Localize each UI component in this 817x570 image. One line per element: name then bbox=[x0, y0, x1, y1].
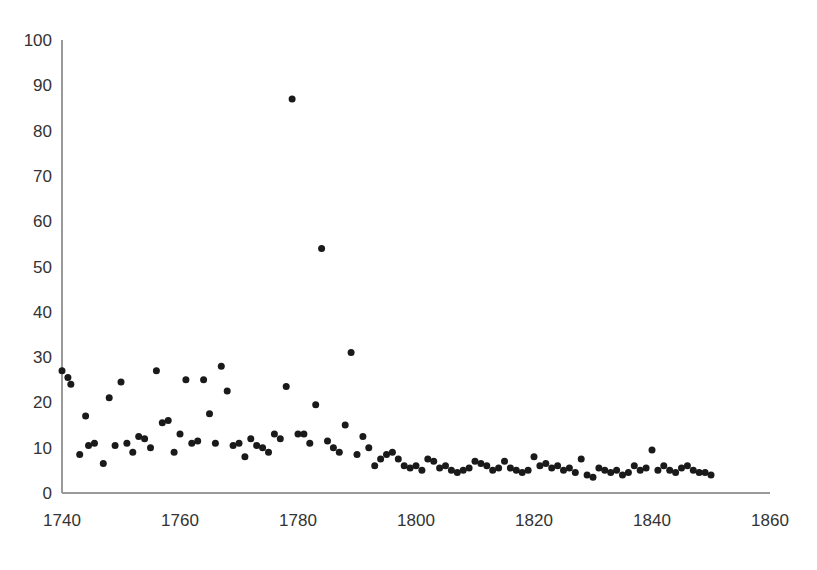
data-point bbox=[483, 462, 490, 469]
data-point bbox=[572, 469, 579, 476]
data-point bbox=[212, 440, 219, 447]
y-axis-tick-labels: 0102030405060708090100 bbox=[24, 31, 52, 503]
y-tick-label: 10 bbox=[33, 439, 52, 458]
data-point bbox=[82, 412, 89, 419]
data-point bbox=[684, 462, 691, 469]
data-point bbox=[342, 422, 349, 429]
data-point bbox=[100, 460, 107, 467]
data-point bbox=[91, 440, 98, 447]
data-point bbox=[289, 95, 296, 102]
data-point bbox=[283, 383, 290, 390]
data-point bbox=[59, 367, 66, 374]
data-point bbox=[194, 437, 201, 444]
data-point bbox=[153, 367, 160, 374]
data-point bbox=[413, 462, 420, 469]
data-point bbox=[625, 469, 632, 476]
data-point bbox=[67, 381, 74, 388]
data-point bbox=[206, 410, 213, 417]
y-tick-label: 50 bbox=[33, 258, 52, 277]
data-point bbox=[271, 431, 278, 438]
y-tick-label: 30 bbox=[33, 348, 52, 367]
data-point bbox=[165, 417, 172, 424]
y-tick-label: 60 bbox=[33, 212, 52, 231]
x-tick-label: 1860 bbox=[751, 511, 789, 530]
data-point bbox=[318, 245, 325, 252]
data-point bbox=[525, 467, 532, 474]
data-point bbox=[649, 446, 656, 453]
x-tick-label: 1780 bbox=[279, 511, 317, 530]
data-point bbox=[643, 465, 650, 472]
data-point bbox=[129, 449, 136, 456]
data-point bbox=[123, 440, 130, 447]
y-tick-label: 40 bbox=[33, 303, 52, 322]
x-axis-tick-labels: 1740176017801800182018401860 bbox=[43, 511, 789, 530]
data-point bbox=[259, 444, 266, 451]
y-tick-label: 90 bbox=[33, 76, 52, 95]
plot-area: 0102030405060708090100 17401760178018001… bbox=[0, 0, 817, 570]
y-tick-label: 20 bbox=[33, 393, 52, 412]
data-point bbox=[578, 456, 585, 463]
data-point bbox=[418, 467, 425, 474]
data-point bbox=[501, 458, 508, 465]
y-tick-label: 70 bbox=[33, 167, 52, 186]
data-point bbox=[112, 442, 119, 449]
x-tick-label: 1820 bbox=[515, 511, 553, 530]
data-point bbox=[590, 474, 597, 481]
y-tick-label: 100 bbox=[24, 31, 52, 50]
data-point bbox=[312, 401, 319, 408]
data-point bbox=[177, 431, 184, 438]
data-point bbox=[265, 449, 272, 456]
y-tick-label: 80 bbox=[33, 122, 52, 141]
data-point bbox=[395, 456, 402, 463]
data-point bbox=[613, 467, 620, 474]
x-tick-label: 1840 bbox=[633, 511, 671, 530]
data-point bbox=[672, 469, 679, 476]
data-point bbox=[324, 437, 331, 444]
data-points bbox=[59, 95, 715, 480]
data-point bbox=[200, 376, 207, 383]
data-point bbox=[224, 388, 231, 395]
data-point bbox=[442, 462, 449, 469]
data-point bbox=[118, 379, 125, 386]
data-point bbox=[542, 460, 549, 467]
data-point bbox=[389, 449, 396, 456]
data-point bbox=[348, 349, 355, 356]
data-point bbox=[354, 451, 361, 458]
data-point bbox=[64, 374, 71, 381]
data-point bbox=[495, 465, 502, 472]
data-point bbox=[306, 440, 313, 447]
data-point bbox=[171, 449, 178, 456]
data-point bbox=[359, 433, 366, 440]
data-point bbox=[377, 456, 384, 463]
data-point bbox=[631, 462, 638, 469]
data-point bbox=[247, 435, 254, 442]
data-point bbox=[147, 444, 154, 451]
data-point bbox=[241, 453, 248, 460]
data-point bbox=[336, 449, 343, 456]
data-point bbox=[365, 444, 372, 451]
data-point bbox=[141, 435, 148, 442]
data-point bbox=[76, 451, 83, 458]
data-point bbox=[430, 458, 437, 465]
data-point bbox=[531, 453, 538, 460]
data-point bbox=[554, 462, 561, 469]
data-point bbox=[466, 465, 473, 472]
x-tick-label: 1740 bbox=[43, 511, 81, 530]
data-point bbox=[708, 471, 715, 478]
data-point bbox=[182, 376, 189, 383]
scatter-chart: 0102030405060708090100 17401760178018001… bbox=[0, 0, 817, 570]
data-point bbox=[218, 363, 225, 370]
data-point bbox=[371, 462, 378, 469]
axes bbox=[62, 40, 770, 493]
data-point bbox=[330, 444, 337, 451]
data-point bbox=[277, 435, 284, 442]
data-point bbox=[566, 465, 573, 472]
x-tick-label: 1800 bbox=[397, 511, 435, 530]
data-point bbox=[654, 467, 661, 474]
x-tick-label: 1760 bbox=[161, 511, 199, 530]
data-point bbox=[236, 440, 243, 447]
data-point bbox=[660, 462, 667, 469]
data-point bbox=[300, 431, 307, 438]
y-tick-label: 0 bbox=[43, 484, 52, 503]
data-point bbox=[106, 394, 113, 401]
